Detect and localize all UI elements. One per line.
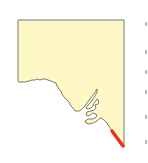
edge-tick <box>145 70 147 74</box>
state-map <box>0 0 148 163</box>
map-edge-ticks <box>145 0 148 163</box>
state-region-south-australia <box>18 20 124 147</box>
edge-tick <box>145 140 147 144</box>
edge-tick <box>145 50 147 54</box>
edge-tick <box>145 22 147 26</box>
edge-tick <box>145 115 147 119</box>
edge-tick <box>145 90 147 94</box>
